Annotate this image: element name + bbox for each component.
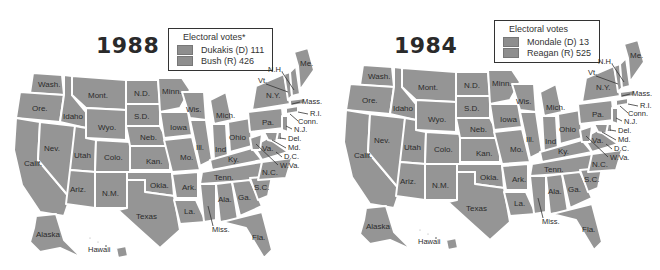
label-ga: Ga. (238, 193, 251, 202)
label-ky: Ky. (558, 147, 569, 156)
label-nm: N.M. (102, 189, 119, 198)
label-sd: S.D. (464, 104, 480, 113)
label-hawaii: Hawaii (418, 237, 441, 246)
label-tenn: Tenn. (544, 165, 564, 174)
label-nc: N.C. (262, 168, 278, 177)
label-del: Del. (618, 126, 631, 135)
label-ny: N.Y. (596, 83, 611, 92)
label-nd: N.D. (464, 81, 480, 90)
label-wash: Wash. (38, 80, 60, 89)
label-mont: Mont. (88, 91, 108, 100)
label-miss: Miss. (542, 217, 560, 226)
label-nev: Nev. (374, 136, 390, 145)
state-conn (286, 106, 298, 114)
label-nj: N.J. (294, 125, 307, 134)
label-sc: S.C. (584, 175, 600, 184)
label-minn: Minn. (492, 79, 512, 88)
label-alaska: Alaska (366, 222, 391, 231)
label-ore: Ore. (32, 104, 48, 113)
label-la: La. (514, 199, 525, 208)
label-texas: Texas (136, 212, 157, 221)
label-neb: Neb. (140, 133, 157, 142)
label-ga: Ga. (568, 185, 581, 194)
label-pa: Pa. (592, 110, 604, 119)
label-hawaii: Hawaii (88, 245, 111, 254)
label-ohio: Ohio (559, 125, 576, 134)
label-tenn: Tenn. (214, 173, 234, 182)
label-nm: N.M. (432, 181, 449, 190)
state-hawaii (446, 238, 458, 250)
label-md: Md. (618, 135, 631, 144)
label-dc: D.C. (614, 144, 629, 153)
label-idaho: Idaho (393, 104, 414, 113)
label-wyo: Wyo. (428, 115, 446, 124)
label-okla: Okla. (150, 181, 169, 190)
state-miss (200, 184, 216, 222)
label-idaho: Idaho (63, 112, 84, 121)
label-ind: Ind (215, 145, 226, 154)
label-texas: Texas (466, 204, 487, 213)
map-panel-1984: 1984 Electoral votes Mondale (D) 13 Reag… (330, 0, 660, 270)
label-wyo: Wyo. (98, 123, 116, 132)
label-calif: Calif. (24, 159, 42, 168)
label-ariz: Ariz. (70, 185, 86, 194)
label-sc: S.C. (254, 183, 270, 192)
label-mo: Mo. (510, 145, 523, 154)
state-miss (530, 176, 546, 214)
label-mass: Mass. (632, 89, 652, 98)
label-okla: Okla. (480, 173, 499, 182)
label-nev: Nev. (44, 144, 60, 153)
label-mich: Mich. (546, 103, 565, 112)
label-vt: Vt. (258, 76, 267, 85)
label-wis: Wis. (516, 97, 532, 106)
label-md: Md. (288, 143, 301, 152)
label-mont: Mont. (418, 83, 438, 92)
label-fla: Fla. (582, 225, 595, 234)
label-kan: Kan. (476, 149, 492, 158)
label-minn: Minn. (162, 87, 182, 96)
state-conn (616, 98, 628, 106)
label-neb: Neb. (470, 125, 487, 134)
label-miss: Miss. (212, 225, 230, 234)
label-ky: Ky. (228, 155, 239, 164)
label-ala: Ala. (218, 195, 232, 204)
label-colo: Colo. (104, 153, 123, 162)
label-ill: Ill. (526, 135, 534, 144)
label-dc: D.C. (284, 152, 299, 161)
label-ark: Ark. (182, 183, 196, 192)
label-wash: Wash. (368, 72, 390, 81)
label-nh: N.H. (268, 65, 283, 74)
label-fla: Fla. (252, 233, 265, 242)
label-nj: N.J. (624, 117, 637, 126)
label-wis: Wis. (186, 105, 202, 114)
label-ala: Ala. (548, 187, 562, 196)
map-panel-1988: 1988 Electoral votes* Dukakis (D) 111 Bu… (0, 0, 330, 270)
label-ny: N.Y. (266, 91, 281, 100)
label-pa: Pa. (262, 118, 274, 127)
label-iowa: Iowa (170, 123, 187, 132)
label-nh: N.H. (598, 57, 613, 66)
label-ohio: Ohio (229, 133, 246, 142)
label-me: Me. (300, 59, 313, 68)
label-mich: Mich. (216, 111, 235, 120)
label-wva: W.Va. (610, 153, 629, 162)
label-calif: Calif. (354, 151, 372, 160)
label-mass: Mass. (302, 97, 322, 106)
label-utah: Utah (74, 151, 91, 160)
label-me: Me. (630, 51, 643, 60)
label-nc: N.C. (592, 160, 608, 169)
label-sd: S.D. (134, 112, 150, 121)
state-nj (282, 116, 288, 132)
label-iowa: Iowa (500, 115, 517, 124)
label-ill: Ill. (196, 143, 204, 152)
label-colo: Colo. (434, 145, 453, 154)
label-ore: Ore. (362, 96, 378, 105)
label-mo: Mo. (180, 153, 193, 162)
label-del: Del. (288, 134, 301, 143)
label-vt: Vt. (588, 68, 597, 77)
label-utah: Utah (404, 143, 421, 152)
label-kan: Kan. (146, 157, 162, 166)
label-ariz: Ariz. (400, 177, 416, 186)
us-map: Wash. Ore. Calif. Nev. Idaho Mont. Wyo. … (0, 0, 330, 270)
label-ind: Ind (545, 137, 556, 146)
